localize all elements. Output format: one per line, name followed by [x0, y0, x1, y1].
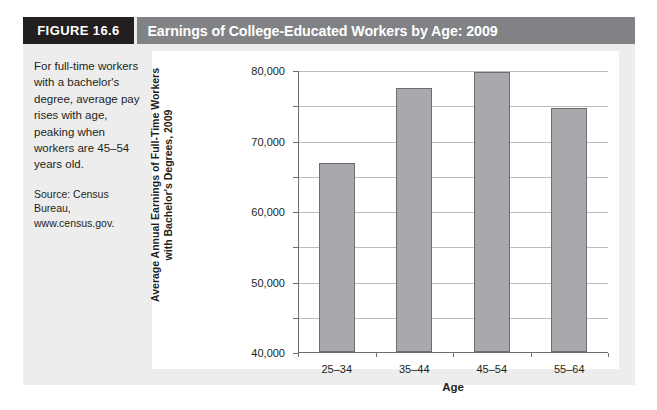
y-tick-label: 60,000	[251, 206, 285, 218]
caption-column: For full-time workers with a bachelor's …	[34, 58, 146, 230]
y-tick-label: 70,000	[251, 136, 285, 148]
x-tick-mark	[376, 353, 377, 357]
x-axis-line	[298, 352, 608, 353]
figure-caption: For full-time workers with a bachelor's …	[34, 58, 146, 173]
bar	[474, 72, 510, 352]
y-tick-label: 80,000	[251, 65, 285, 77]
x-tick-mark	[608, 353, 609, 357]
x-tick-mark	[453, 353, 454, 357]
y-axis-line	[298, 71, 299, 353]
figure-number-badge: FIGURE 16.6	[23, 17, 134, 44]
bar	[396, 88, 432, 352]
x-tick-label: 55–64	[554, 363, 585, 375]
x-tick-label: 35–44	[399, 363, 430, 375]
page-root: FIGURE 16.6 Earnings of College-Educated…	[0, 0, 657, 410]
figure-source: Source: Census Bureau, www.census.gov.	[34, 187, 146, 231]
figure-title: Earnings of College-Educated Workers by …	[137, 22, 498, 39]
y-axis-title: Average Annual Earnings of Full-Time Wor…	[146, 51, 178, 319]
chart-panel: Average Annual Earnings of Full-Time Wor…	[152, 51, 619, 369]
y-tick-label: 40,000	[251, 347, 285, 359]
y-tick-label: 50,000	[251, 277, 285, 289]
plot-inner: 010,00020,00030,00040,00050,00060,00070,…	[298, 71, 608, 353]
figure-frame: FIGURE 16.6 Earnings of College-Educated…	[23, 17, 635, 385]
y-axis-title-line-2: with Bachelor's Degrees, 2009	[162, 110, 176, 261]
plot-area: 010,00020,00030,00040,00050,00060,00070,…	[298, 71, 608, 353]
gridline	[298, 71, 608, 72]
bar	[551, 108, 587, 352]
x-axis-title: Age	[298, 381, 608, 393]
x-tick-label: 45–54	[476, 363, 507, 375]
x-tick-mark	[531, 353, 532, 357]
figure-header: FIGURE 16.6 Earnings of College-Educated…	[23, 17, 635, 44]
figure-title-bar: Earnings of College-Educated Workers by …	[137, 17, 635, 44]
y-axis-title-line-1: Average Annual Earnings of Full-Time Wor…	[149, 68, 163, 302]
bar	[319, 163, 355, 352]
x-tick-mark	[298, 353, 299, 357]
x-tick-label: 25–34	[321, 363, 352, 375]
